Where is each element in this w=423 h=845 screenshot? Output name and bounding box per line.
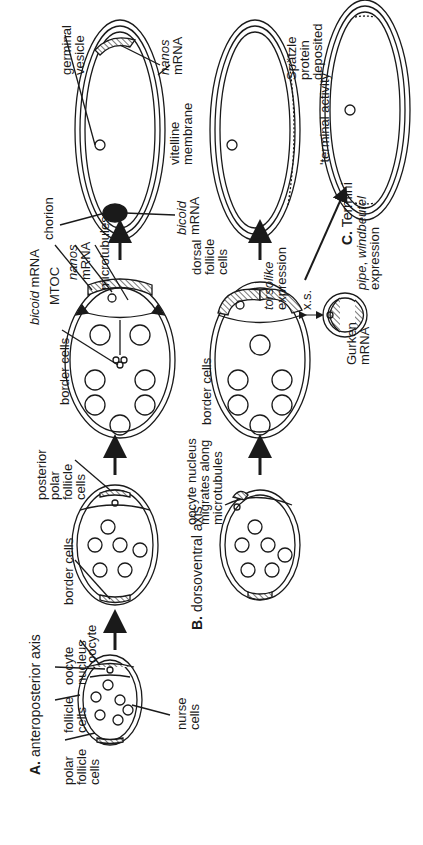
label-follicle-cells: folliclecells (62, 697, 88, 733)
panel-a-title: A. anteroposterior axis (28, 634, 43, 775)
panel-c-title: C. Termini (340, 182, 355, 245)
label-posterior-polar-follicle-cells: posteriorpolarfolliclecells (35, 449, 87, 500)
label-dorsal-follicle-cells: dorsalfolliclecells (190, 239, 229, 275)
label-pipe-windbeutel-expression: pipe, windbeutel expression (355, 196, 381, 290)
egg-chamber-dorsoventral-early (220, 490, 300, 600)
label-border-cells-3: border cells (200, 358, 213, 425)
label-chorion: chorion (42, 197, 55, 240)
label-torsolike-expression: torsolikeexpression (262, 247, 288, 310)
label-microtubules: microtubules (98, 216, 111, 290)
mature-egg-termini (320, 0, 410, 220)
label-mtoc: MTOC (48, 267, 61, 305)
label-polar-follicle-cells: polarfolliclecells (62, 749, 101, 785)
label-germinal-vesicle: germinalvesicle (60, 25, 86, 75)
label-nanos-mrna-mid: nanosmRNA (66, 242, 92, 280)
egg-chamber-stage-late (65, 279, 175, 438)
label-nurse-cells: nursecells (175, 697, 201, 730)
mature-egg-anteroposterior (75, 20, 165, 240)
label-border-cells-2: border cells (58, 338, 71, 405)
label-bicoid-mrna-right: bicoidmRNA (175, 197, 201, 235)
label-border-cells-1: border cells (62, 538, 75, 605)
label-gurken-mrna: GurkenmRNA (345, 322, 371, 365)
egg-chamber-dorsoventral-late (210, 282, 310, 438)
label-nanos-mrna-right: nanosmRNA (158, 37, 184, 75)
egg-chamber-stage-mid (72, 485, 158, 605)
label-bicoid-mrna-top: bicoid mRNA (28, 249, 41, 325)
label-terminal-activity: 'terminal activity' (318, 70, 331, 165)
label-xs: x.s. (300, 290, 313, 310)
label-oocyte: oocyte (85, 625, 98, 663)
figure-rotated-canvas: A. anteroposterior axis B. dorsoventral … (0, 0, 423, 845)
label-vitelline-membrane: vitellinemembrane (168, 103, 194, 165)
label-oocyte-nucleus-migrates: oocyte nucleusmigrates alongmicrotubules (185, 438, 224, 525)
